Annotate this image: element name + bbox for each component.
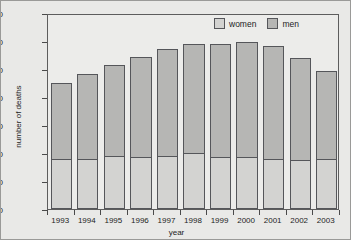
- bar-segment-women-1996[interactable]: [130, 157, 151, 209]
- bar-2001[interactable]: [263, 46, 284, 209]
- plot-area: [47, 14, 339, 210]
- x-axis-tick-mark: [312, 210, 313, 215]
- x-axis-title: year: [1, 228, 351, 237]
- chart-legend: women men: [214, 18, 299, 29]
- bar-segment-women-2001[interactable]: [263, 159, 284, 209]
- bars-container: [48, 15, 338, 209]
- x-axis-tick-mark: [127, 210, 128, 215]
- bar-segment-women-1999[interactable]: [210, 157, 231, 209]
- bar-segment-women-1995[interactable]: [104, 156, 125, 209]
- legend-swatch-women-icon: [214, 18, 225, 29]
- bar-2002[interactable]: [290, 58, 311, 209]
- x-axis-tick-label-1996: 1996: [131, 216, 149, 225]
- y-axis-tick-label: 1500: [0, 122, 3, 131]
- y-axis-tick-label: 500: [0, 178, 3, 187]
- x-axis-tick-mark: [47, 210, 48, 215]
- bar-segment-women-2000[interactable]: [236, 157, 257, 209]
- legend-item-men: men: [267, 18, 299, 29]
- legend-item-women: women: [214, 18, 256, 29]
- bar-segment-women-1997[interactable]: [157, 156, 178, 209]
- chart-figure: number of deaths 05001000150020002500300…: [0, 0, 351, 240]
- y-axis-tick-label: 0: [0, 206, 3, 215]
- x-axis-tick-mark: [74, 210, 75, 215]
- legend-label-women: women: [229, 19, 256, 29]
- x-axis-tick-label-1998: 1998: [184, 216, 202, 225]
- bar-2000[interactable]: [236, 42, 257, 209]
- bar-segment-women-1998[interactable]: [183, 153, 204, 209]
- legend-swatch-men-icon: [267, 18, 278, 29]
- x-axis-tick-label-1993: 1993: [51, 216, 69, 225]
- x-axis-tick-label-2002: 2002: [290, 216, 308, 225]
- bar-1999[interactable]: [210, 44, 231, 209]
- x-axis-tick-mark: [339, 210, 340, 215]
- x-axis-tick-mark: [180, 210, 181, 215]
- bar-1995[interactable]: [104, 65, 125, 209]
- y-axis-title: number of deaths: [14, 62, 23, 172]
- y-axis-tick-label: 3500: [0, 10, 3, 19]
- bar-segment-women-1994[interactable]: [77, 159, 98, 209]
- bar-segment-women-2002[interactable]: [290, 160, 311, 209]
- x-axis-tick-label-1994: 1994: [78, 216, 96, 225]
- bar-1998[interactable]: [183, 44, 204, 209]
- x-axis-tick-label-2000: 2000: [237, 216, 255, 225]
- x-axis-tick-mark: [233, 210, 234, 215]
- y-axis-tick-label: 3000: [0, 38, 3, 47]
- bar-1993[interactable]: [51, 83, 72, 209]
- bar-segment-women-2003[interactable]: [316, 159, 337, 209]
- bar-segment-women-1993[interactable]: [51, 159, 72, 209]
- bar-1997[interactable]: [157, 49, 178, 209]
- x-axis-tick-label-2003: 2003: [317, 216, 335, 225]
- bar-1996[interactable]: [130, 57, 151, 209]
- x-axis-tick-label-2001: 2001: [264, 216, 282, 225]
- x-axis-tick-label-1995: 1995: [104, 216, 122, 225]
- x-axis-tick-mark: [206, 210, 207, 215]
- y-axis-tick-label: 1000: [0, 150, 3, 159]
- y-axis-tick-label: 2000: [0, 94, 3, 103]
- x-axis-tick-label-1999: 1999: [211, 216, 229, 225]
- x-axis-tick-mark: [286, 210, 287, 215]
- legend-label-men: men: [282, 19, 299, 29]
- bar-2003[interactable]: [316, 71, 337, 209]
- x-axis-tick-mark: [100, 210, 101, 215]
- y-axis-tick-label: 2500: [0, 66, 3, 75]
- x-axis-tick-mark: [259, 210, 260, 215]
- x-axis-tick-mark: [153, 210, 154, 215]
- x-axis-tick-label-1997: 1997: [158, 216, 176, 225]
- bar-1994[interactable]: [77, 74, 98, 209]
